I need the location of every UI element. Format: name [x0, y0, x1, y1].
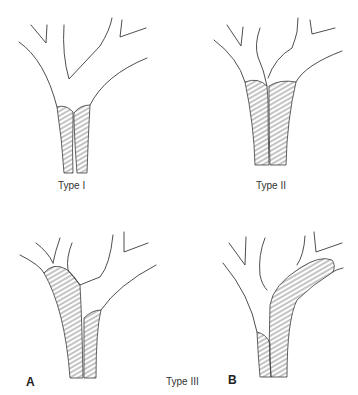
branch-middle-left: [256, 28, 267, 86]
branch-v-left: [31, 25, 47, 43]
hatched-left-branch: [44, 266, 83, 378]
hatched-right-branch: [74, 105, 90, 173]
vessel-wall-left: [19, 42, 57, 107]
hatched-left-branch: [245, 80, 269, 165]
type-2-label: Type II: [256, 180, 286, 191]
branch-right: [310, 20, 335, 34]
panel-type-2: [214, 18, 342, 165]
branch-middle-right: [268, 18, 298, 78]
panel-type-3b: [223, 232, 343, 377]
hatched-right-branch: [84, 310, 101, 378]
vessel-wall-right: [101, 265, 156, 310]
branch-right: [124, 232, 148, 252]
type-1-label: Type I: [58, 180, 85, 191]
vessel-wall-right: [333, 268, 343, 272]
branch-v-left-b: [53, 238, 60, 263]
type-3-label: Type III: [166, 376, 199, 387]
branch-middle: [260, 238, 267, 290]
panel-type-1: [19, 18, 147, 173]
branch-middle: [64, 18, 112, 79]
branch-middle: [68, 235, 114, 285]
branch-upper: [297, 236, 305, 265]
vessel-wall-left: [214, 40, 245, 82]
hatched-right-branch-large: [269, 259, 334, 377]
vessel-wall-right: [90, 58, 147, 105]
hatched-right-branch: [269, 81, 296, 165]
panel-letter-b: B: [228, 373, 237, 387]
branch-v-left-a: [36, 243, 53, 263]
vessel-wall-left: [223, 263, 257, 332]
vessel-wall-right: [296, 51, 342, 82]
vessel-wall-left: [20, 255, 44, 273]
branch-right: [314, 232, 342, 252]
branch-right: [120, 20, 146, 37]
panel-letter-a: A: [26, 375, 35, 389]
branch-v-left: [229, 237, 246, 265]
hatched-left-branch: [57, 106, 73, 173]
branch-v-left: [227, 25, 243, 46]
panel-type-3a: [20, 232, 156, 378]
classification-figure: Type I Type II Type III A B: [0, 0, 358, 395]
diagram-canvas: [0, 0, 358, 395]
